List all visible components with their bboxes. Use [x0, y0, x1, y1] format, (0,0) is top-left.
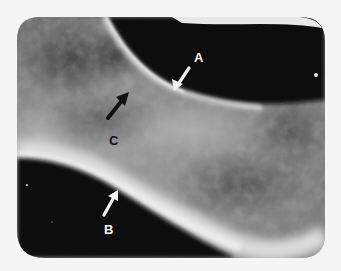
label-a: A [194, 50, 204, 65]
radiograph-figure: A B C [0, 0, 341, 271]
label-b: B [104, 222, 113, 237]
radiograph-image: A B C [0, 0, 341, 271]
label-c: C [109, 133, 119, 148]
